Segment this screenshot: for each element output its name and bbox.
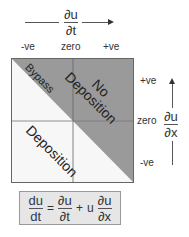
equals-sign: = bbox=[47, 201, 54, 215]
top-axis-numerator: ∂u bbox=[64, 8, 78, 21]
right-axis-numerator: ∂u bbox=[164, 110, 178, 123]
right-tick-pos: +ve bbox=[140, 75, 156, 86]
right-tick-neg: -ve bbox=[140, 157, 154, 168]
term1-fraction: ∂u ∂t bbox=[58, 194, 72, 223]
formula-box: du dt = ∂u ∂t + u ∂u ∂x bbox=[19, 191, 121, 225]
quadrant-diagram: Bypass No Deposition Deposition bbox=[11, 58, 134, 183]
right-axis-line-top bbox=[172, 84, 173, 108]
term1-numerator: ∂u bbox=[58, 194, 72, 207]
right-axis-denominator: ∂x bbox=[165, 126, 178, 139]
plus-sign: + bbox=[76, 201, 83, 215]
velocity-u: u bbox=[87, 201, 94, 215]
right-axis-line-bottom bbox=[172, 141, 173, 165]
term2-fraction: ∂u ∂x bbox=[98, 194, 112, 223]
term2-numerator: ∂u bbox=[98, 194, 112, 207]
lhs-fraction: du dt bbox=[28, 194, 42, 223]
lhs-numerator: du bbox=[28, 194, 42, 207]
top-axis-line-left bbox=[25, 22, 59, 23]
top-axis-label: ∂u ∂t bbox=[64, 8, 78, 37]
top-axis-line-right bbox=[82, 22, 110, 23]
arrow-right-icon bbox=[108, 19, 114, 25]
right-axis-label: ∂u ∂x bbox=[164, 110, 178, 139]
top-axis-denominator: ∂t bbox=[66, 24, 76, 37]
top-tick-pos: +ve bbox=[103, 41, 119, 52]
term1-denominator: ∂t bbox=[60, 210, 70, 223]
term2-denominator: ∂x bbox=[98, 210, 111, 223]
top-tick-zero: zero bbox=[61, 41, 80, 52]
top-tick-neg: -ve bbox=[21, 41, 35, 52]
right-tick-zero: zero bbox=[137, 115, 156, 126]
lhs-denominator: dt bbox=[30, 210, 41, 223]
